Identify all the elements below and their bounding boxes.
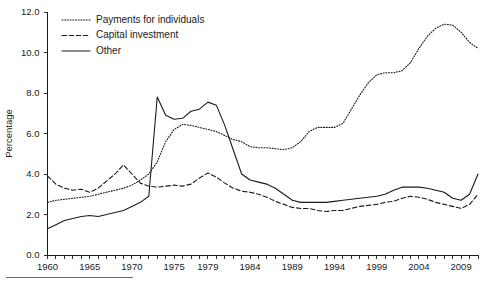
- y-axis-tick-marks: [44, 12, 48, 255]
- y-tick-label: 10.0: [21, 47, 40, 58]
- y-tick-label: 8.0: [26, 87, 39, 98]
- x-tick-label: 1979: [197, 261, 218, 272]
- x-tick-label: 1989: [282, 261, 303, 272]
- y-tick-label: 2.0: [26, 209, 39, 220]
- x-tick-label: 1965: [79, 261, 100, 272]
- x-tick-label: 2009: [451, 261, 472, 272]
- y-tick-label: 0.0: [26, 249, 39, 260]
- x-tick-label: 2004: [408, 261, 429, 272]
- x-tick-label: 1984: [240, 261, 261, 272]
- y-tick-label: 4.0: [26, 168, 39, 179]
- legend-label: Other: [96, 45, 122, 56]
- chart-legend: Payments for individualsCapital investme…: [62, 14, 204, 56]
- x-axis-tick-marks: [48, 255, 479, 259]
- chart-figure: 0.02.04.06.08.010.012.0 1960196519701975…: [0, 0, 486, 289]
- x-axis-tick-labels: 1960196519701975197919841989199419992004…: [37, 261, 472, 272]
- y-axis-title: Percentage: [3, 109, 14, 158]
- legend-label: Payments for individuals: [96, 14, 204, 25]
- legend-label: Capital investment: [96, 29, 178, 40]
- y-axis-tick-labels: 0.02.04.06.08.010.012.0: [21, 6, 40, 260]
- x-tick-label: 1970: [121, 261, 142, 272]
- series-line-dashed: [48, 165, 479, 212]
- line-chart: 0.02.04.06.08.010.012.0 1960196519701975…: [0, 0, 486, 289]
- x-tick-label: 1994: [324, 261, 345, 272]
- series-line-solid: [48, 97, 479, 229]
- x-tick-label: 1999: [366, 261, 387, 272]
- x-tick-label: 1960: [37, 261, 58, 272]
- y-tick-label: 12.0: [21, 6, 40, 17]
- y-tick-label: 6.0: [26, 128, 39, 139]
- x-tick-label: 1975: [164, 261, 185, 272]
